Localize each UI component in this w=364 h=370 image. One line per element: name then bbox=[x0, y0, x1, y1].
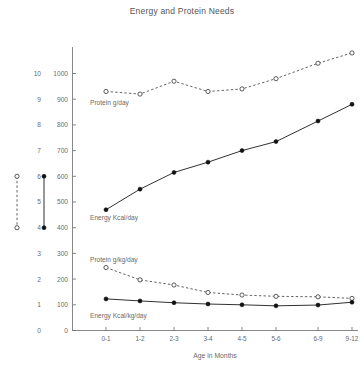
secondary-axis-tick-labels: 012345678910 bbox=[34, 70, 42, 334]
secondary-tick-label: 2 bbox=[37, 276, 41, 283]
data-point bbox=[206, 302, 210, 306]
series-markers bbox=[104, 51, 354, 308]
series-lines bbox=[106, 53, 352, 306]
data-point bbox=[316, 119, 320, 123]
secondary-tick-label: 10 bbox=[34, 70, 42, 77]
primary-tick-label: 600 bbox=[57, 173, 68, 180]
data-point bbox=[240, 149, 244, 153]
x-tick-label: 4-5 bbox=[237, 335, 247, 342]
primary-tick-label: 500 bbox=[57, 198, 68, 205]
x-axis-tick-labels: 0-11-22-33-44-55-66-99-12 bbox=[101, 335, 358, 342]
series-line bbox=[106, 53, 352, 94]
secondary-tick-label: 9 bbox=[37, 96, 41, 103]
secondary-tick-label: 6 bbox=[37, 173, 41, 180]
data-point bbox=[138, 92, 142, 96]
data-point bbox=[172, 170, 176, 174]
data-point bbox=[138, 187, 142, 191]
data-point bbox=[316, 303, 320, 307]
legend-key-marker bbox=[42, 226, 46, 230]
primary-axis-tick-marks bbox=[73, 74, 77, 331]
primary-tick-label: 0 bbox=[64, 327, 68, 334]
data-point bbox=[240, 303, 244, 307]
secondary-tick-label: 3 bbox=[37, 250, 41, 257]
data-point bbox=[172, 301, 176, 305]
data-point bbox=[274, 294, 278, 298]
data-point bbox=[240, 87, 244, 91]
x-tick-label: 3-4 bbox=[203, 335, 213, 342]
secondary-tick-label: 0 bbox=[37, 327, 41, 334]
legend-key-marker bbox=[15, 226, 19, 230]
primary-tick-label: 200 bbox=[57, 276, 68, 283]
legend-keys bbox=[15, 174, 46, 230]
secondary-tick-label: 7 bbox=[37, 147, 41, 154]
series-label: Energy Kcal/kg/day bbox=[90, 312, 148, 320]
data-point bbox=[316, 295, 320, 299]
secondary-tick-label: 4 bbox=[37, 224, 41, 231]
data-point bbox=[274, 77, 278, 81]
data-point bbox=[350, 102, 354, 106]
primary-tick-label: 1000 bbox=[53, 70, 68, 77]
data-point bbox=[138, 299, 142, 303]
primary-tick-label: 800 bbox=[57, 121, 68, 128]
series-labels: Protein g/dayEnergy Kcal/dayProtein g/kg… bbox=[90, 99, 148, 320]
x-tick-label: 5-6 bbox=[271, 335, 281, 342]
data-point bbox=[104, 297, 108, 301]
x-tick-label: 6-9 bbox=[313, 335, 323, 342]
series-line bbox=[106, 104, 352, 209]
secondary-tick-label: 5 bbox=[37, 198, 41, 205]
chart-figure: Energy and Protein Needs 012345678910 01… bbox=[0, 0, 364, 370]
data-point bbox=[274, 140, 278, 144]
x-axis-title: Age in Months bbox=[193, 352, 237, 360]
x-axis-tick-marks bbox=[106, 327, 352, 331]
x-tick-label: 2-3 bbox=[169, 335, 179, 342]
data-point bbox=[104, 89, 108, 93]
x-tick-label: 0-1 bbox=[101, 335, 111, 342]
primary-axis-tick-labels: 01002003004005006007008009001000 bbox=[53, 70, 68, 334]
data-point bbox=[104, 208, 108, 212]
series-line bbox=[106, 299, 352, 306]
data-point bbox=[206, 89, 210, 93]
legend-key-marker bbox=[42, 174, 46, 178]
secondary-tick-label: 8 bbox=[37, 121, 41, 128]
data-point bbox=[206, 160, 210, 164]
primary-tick-label: 300 bbox=[57, 250, 68, 257]
data-point bbox=[350, 51, 354, 55]
data-point bbox=[240, 293, 244, 297]
figure-caption-clipped bbox=[0, 365, 364, 370]
legend-key-marker bbox=[15, 174, 19, 178]
data-point bbox=[138, 278, 142, 282]
series-label: Protein g/kg/day bbox=[90, 256, 138, 264]
chart-plot-area: 012345678910 010020030040050060070080090… bbox=[0, 0, 364, 370]
data-point bbox=[350, 296, 354, 300]
data-point bbox=[274, 304, 278, 308]
primary-tick-label: 700 bbox=[57, 147, 68, 154]
data-point bbox=[172, 79, 176, 83]
primary-tick-label: 100 bbox=[57, 301, 68, 308]
x-tick-label: 1-2 bbox=[135, 335, 145, 342]
data-point bbox=[206, 290, 210, 294]
data-point bbox=[172, 283, 176, 287]
series-label: Energy Kcal/day bbox=[90, 214, 139, 222]
primary-tick-label: 900 bbox=[57, 96, 68, 103]
data-point bbox=[104, 265, 108, 269]
primary-tick-label: 400 bbox=[57, 224, 68, 231]
data-point bbox=[316, 61, 320, 65]
series-label: Protein g/day bbox=[90, 99, 130, 107]
series-line bbox=[106, 268, 352, 299]
secondary-tick-label: 1 bbox=[37, 301, 41, 308]
x-tick-label: 9-12 bbox=[346, 335, 359, 342]
data-point bbox=[350, 300, 354, 304]
